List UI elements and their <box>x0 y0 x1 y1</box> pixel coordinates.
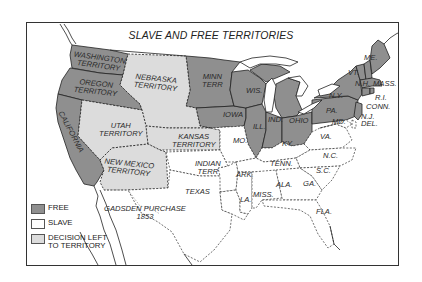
label-wisconsin: WIS. <box>246 87 262 95</box>
label-delaware: DEL. <box>361 120 378 128</box>
legend-item-slave: SLAVE <box>31 219 107 229</box>
label-georgia: GA. <box>303 180 316 188</box>
label-gadsden: GADSDEN PURCHASE 1853 <box>104 205 186 221</box>
label-ohio: OHIO <box>289 117 308 125</box>
label-missouri: MO. <box>233 137 247 145</box>
legend-label-slave: SLAVE <box>48 219 73 227</box>
region-rhode-island <box>370 88 374 94</box>
legend-label-decision: DECISION LEFT TO TERRITORY <box>48 234 107 250</box>
legend-item-decision: DECISION LEFT TO TERRITORY <box>31 234 107 250</box>
label-north-carolina: N.C. <box>323 152 338 160</box>
label-iowa: IOWA <box>223 111 243 119</box>
label-massachusetts: MASS. <box>373 80 397 88</box>
swatch-free <box>31 204 45 214</box>
label-kansas: KANSAS TERRITORY <box>172 133 215 149</box>
label-new-hampshire: N.H. <box>355 80 370 88</box>
label-alabama: ALA. <box>276 181 292 189</box>
label-virginia: VA. <box>320 133 332 141</box>
label-indian-terr: INDIAN TERR <box>195 160 221 176</box>
label-connecticut: CONN. <box>366 103 390 111</box>
label-tennessee: TENN. <box>270 160 293 168</box>
label-arkansas: ARK. <box>236 171 254 179</box>
swatch-slave <box>31 219 45 229</box>
label-new-jersey: N.J. <box>361 113 375 121</box>
label-maryland: MD. <box>332 118 346 126</box>
label-illinois: ILL. <box>253 123 266 131</box>
label-rhode-island: R.I. <box>375 94 387 102</box>
label-louisiana: LA. <box>240 196 251 204</box>
label-kentucky: KY. <box>282 140 294 148</box>
label-vermont: VT. <box>348 69 359 77</box>
label-utah: UTAH TERRITORY <box>99 122 142 138</box>
label-mississippi: MISS. <box>253 191 274 199</box>
label-south-carolina: S.C. <box>316 167 331 175</box>
swatch-decision <box>31 234 45 244</box>
map-title: SLAVE AND FREE TERRITORIES <box>0 29 422 41</box>
label-new-york: N.Y. <box>329 92 343 100</box>
label-minnesota: MINN TERR <box>202 73 223 89</box>
label-florida: FLA. <box>316 208 332 216</box>
label-pennsylvania: PA. <box>326 107 338 115</box>
label-texas: TEXAS <box>185 188 210 196</box>
legend-label-free: FREE <box>48 204 69 212</box>
legend-item-free: FREE <box>31 204 107 214</box>
legend: FREE SLAVE DECISION LEFT TO TERRITORY <box>31 204 107 255</box>
label-indiana: IND. <box>268 116 283 124</box>
label-maine: ME. <box>364 54 378 62</box>
